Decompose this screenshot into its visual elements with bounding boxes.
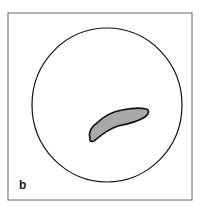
shaded-blob xyxy=(89,108,148,141)
diagram-canvas xyxy=(0,0,203,211)
circle-outline xyxy=(32,28,182,182)
panel-frame xyxy=(8,13,192,200)
panel-label: b xyxy=(19,178,26,192)
